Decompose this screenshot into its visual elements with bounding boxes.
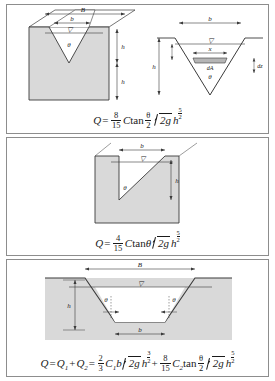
right-triangular-notch-diagram: b ▽ θ h	[7, 138, 268, 230]
label-b: b	[70, 15, 74, 23]
eq3-b: b	[116, 357, 122, 369]
eq3-exp2: 52	[231, 350, 234, 364]
eq2-exp-den: 2	[177, 237, 180, 244]
label-b-detail: b	[208, 15, 212, 23]
equation-v-notch: Q=815Ctanθ22gh52	[93, 107, 181, 130]
label-h: h	[121, 43, 125, 51]
label-dA: dA	[207, 65, 214, 71]
eq1-coefficient: 815	[111, 111, 122, 130]
label-theta: θ	[67, 41, 71, 49]
eq3-t2-den: 15	[160, 364, 171, 373]
eq1-angle-den: 2	[145, 121, 151, 130]
eq2-sqrt: 2g	[152, 236, 170, 249]
v-notch-svg: B b ▽ θ h	[7, 5, 270, 105]
label-h-p2: h	[175, 177, 179, 185]
eq2-exponent: 52	[177, 230, 180, 244]
eq2-equals: =	[103, 237, 111, 249]
eq3-lhs: Q	[41, 357, 49, 369]
eq3-term2-coefficient: 815	[160, 354, 171, 373]
trapezoidal-notch-diagram: B ▽ h b	[7, 260, 268, 350]
label-theta-left-p3: θ	[104, 296, 108, 304]
eq1-exp-den: 2	[178, 114, 181, 121]
eq1-equals: =	[101, 114, 109, 126]
label-x: x	[207, 45, 212, 53]
eq3-q1: Q	[57, 357, 65, 369]
label-b-p2: b	[140, 142, 144, 150]
eq2-tan: tan	[132, 237, 145, 249]
v-notch-diagram: B b ▽ θ h	[7, 5, 268, 107]
eq3-sqrt-1: 2g	[123, 356, 141, 369]
label-B-p3: B	[138, 261, 143, 269]
label-ha: h	[121, 78, 125, 86]
eq3-exp2-den: 2	[231, 358, 234, 365]
label-h-detail: h	[152, 63, 156, 71]
eq1-angle: θ2	[145, 111, 151, 130]
eq3-sqrt-2: 2g	[207, 356, 225, 369]
label-theta-p2: θ	[123, 184, 127, 192]
eq1-sqrt: 2g	[154, 113, 172, 126]
eq2-coeff-num: 4	[113, 234, 124, 244]
eq3-equals-2: =	[88, 357, 96, 369]
trapezoidal-notch-svg: B ▽ h b	[7, 260, 270, 348]
panel-trapezoidal-notch: B ▽ h b	[6, 259, 269, 377]
equation-trapezoidal: Q=Q1+Q2=23C1b2gh32+815C2tanθ22gh52	[41, 350, 235, 373]
label-b-p3: b	[138, 326, 142, 334]
equation-trapezoidal-line: Q=Q1+Q2=23C1b2gh32+815C2tanθ22gh52	[7, 350, 268, 376]
eq1-coeff-den: 15	[111, 121, 122, 130]
eq2-coeff-den: 15	[113, 244, 124, 253]
eq3-C1: C	[105, 357, 112, 369]
eq3-tan: tan	[183, 357, 196, 369]
eq3-radicand-1: 2g	[128, 356, 141, 369]
panel-right-triangular-notch: b ▽ θ h Q=415Ctanθ2gh52	[6, 137, 269, 257]
label-h-p3: h	[67, 302, 71, 310]
eq3-equals-1: =	[49, 357, 57, 369]
eq3-angle-den: 2	[198, 364, 204, 373]
eq1-tan: tan	[130, 114, 143, 126]
v-notch-isometric: B b ▽ θ h	[29, 6, 135, 100]
eq3-angle: θ2	[198, 354, 204, 373]
eq3-t1-den: 3	[98, 364, 104, 373]
label-theta-right-p3: θ	[172, 296, 176, 304]
eq1-exponent: 52	[178, 107, 181, 121]
panel-v-notch: B b ▽ θ h	[6, 4, 269, 134]
v-notch-elevation: b ▽ x dA θ h	[152, 15, 263, 95]
right-triangular-notch-svg: b ▽ θ h	[7, 138, 270, 230]
eq2-coefficient: 415	[113, 234, 124, 253]
eq2-angle: θ	[146, 237, 151, 249]
label-B: B	[81, 6, 86, 14]
eq2-radicand: 2g	[157, 236, 170, 249]
label-theta-detail: θ	[208, 73, 212, 81]
equation-right-triangular-line: Q=415Ctanθ2gh52	[7, 230, 268, 256]
eq3-term1-coefficient: 23	[98, 354, 104, 373]
eq2-lhs: Q	[95, 237, 103, 249]
equation-right-triangular: Q=415Ctanθ2gh52	[95, 230, 180, 253]
eq1-radicand: 2g	[159, 113, 172, 126]
equation-v-notch-line: Q=815Ctanθ22gh52	[7, 107, 268, 133]
label-dz: dz	[257, 63, 263, 69]
figure-sheet: B b ▽ θ h	[0, 0, 275, 381]
eq3-radicand-2: 2g	[212, 356, 225, 369]
eq3-plus-2: +	[150, 357, 158, 369]
